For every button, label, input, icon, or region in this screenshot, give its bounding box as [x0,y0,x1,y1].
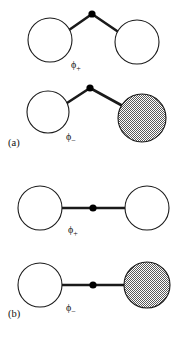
orbital-label-subscript: − [71,136,76,145]
panel-b-row-phi-plus: ϕ+ [18,186,169,238]
orbital-label-subscript: + [73,229,78,238]
orbital-diagram-svg: ϕ+ϕ−(a)ϕ+ϕ−(b) [0,0,185,337]
orbital-lobe-empty [18,263,62,307]
orbital-lobe-shaded [124,262,170,308]
orbital-label: ϕ− [66,302,76,316]
bond-line [92,14,117,31]
center-atom-node [89,204,96,211]
panel-a-row-phi-plus: ϕ+ [28,10,159,73]
orbital-label-subscript: + [76,64,81,73]
diagram-layers: ϕ+ϕ−(a)ϕ+ϕ−(b) [8,10,170,320]
orbital-label: ϕ+ [68,224,78,238]
orbital-lobe-empty [18,186,62,230]
center-atom-node [86,84,93,91]
orbital-lobe-empty [125,186,169,230]
panel-b-row-phi-minus: ϕ− [18,262,170,316]
panel-a: ϕ+ϕ−(a) [8,10,166,149]
orbital-lobe-empty [27,91,69,133]
center-atom-node [89,281,96,288]
center-atom-node [88,10,95,17]
panel-label-a: (a) [8,137,20,149]
orbital-label: ϕ− [66,131,76,145]
bond-line [67,88,90,103]
orbital-lobe-empty [115,20,159,64]
orbital-lobe-shaded [118,94,166,142]
bond-line [90,88,121,105]
orbital-lobe-empty [28,18,72,62]
orbital-label-subscript: − [71,307,76,316]
panel-label-b: (b) [8,308,21,320]
orbital-label: ϕ+ [71,59,81,73]
panel-b: ϕ+ϕ−(b) [8,186,170,320]
figure-container: ϕ+ϕ−(a)ϕ+ϕ−(b) [0,0,185,337]
panel-a-row-phi-minus: ϕ− [27,84,166,145]
bond-line [69,14,92,30]
